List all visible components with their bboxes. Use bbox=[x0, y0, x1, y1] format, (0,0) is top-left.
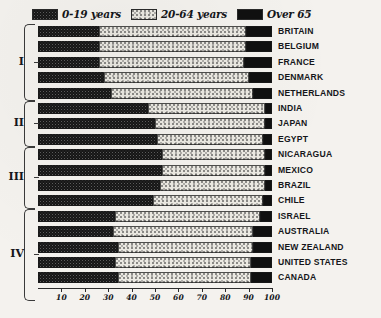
bar-segment-mid bbox=[118, 242, 254, 253]
group-tick-icon bbox=[34, 177, 39, 178]
bar-segment-old bbox=[265, 103, 272, 114]
bar-segment-young bbox=[38, 103, 148, 114]
bar-row bbox=[38, 149, 272, 160]
axis-tick-icon bbox=[249, 288, 250, 292]
bar-segment-mid bbox=[115, 211, 260, 222]
legend-swatch-0-19-icon bbox=[32, 9, 58, 20]
bar-row bbox=[38, 26, 272, 37]
axis-tick-label: 100 bbox=[264, 293, 280, 302]
bar-segment-old bbox=[246, 26, 272, 37]
legend-item-working-age: 20-64 years bbox=[131, 8, 227, 20]
group-label: II bbox=[4, 116, 24, 129]
country-label: CHILE bbox=[278, 195, 305, 206]
bar-segment-young bbox=[38, 165, 162, 176]
axis-tick-icon bbox=[108, 288, 109, 292]
bar-segment-young bbox=[38, 26, 99, 37]
country-label: INDIA bbox=[278, 103, 302, 114]
axis-tick-icon bbox=[272, 288, 273, 292]
country-label: FRANCE bbox=[278, 57, 315, 68]
bar-segment-young bbox=[38, 72, 104, 83]
country-label: NETHERLANDS bbox=[278, 88, 345, 99]
bar-segment-old bbox=[246, 41, 272, 52]
bar-row bbox=[38, 272, 272, 283]
axis-tick-label: 10 bbox=[56, 293, 67, 302]
bar-row bbox=[38, 88, 272, 99]
axis-tick-icon bbox=[178, 288, 179, 292]
legend-item-over-65: Over 65 bbox=[237, 8, 311, 20]
group-label: I bbox=[4, 55, 24, 68]
bar-segment-mid bbox=[99, 57, 244, 68]
bar-segment-old bbox=[249, 72, 272, 83]
bar-segment-young bbox=[38, 149, 162, 160]
bar-segment-old bbox=[263, 195, 272, 206]
bar-row bbox=[38, 242, 272, 253]
country-label: AUSTRALIA bbox=[278, 226, 329, 237]
bar-segment-old bbox=[265, 180, 272, 191]
bar-segment-young bbox=[38, 57, 99, 68]
bar-segment-old bbox=[251, 272, 272, 283]
axis-tick-icon bbox=[155, 288, 156, 292]
legend-label-20-64: 20-64 years bbox=[161, 8, 227, 20]
bar-row bbox=[38, 211, 272, 222]
bar-segment-mid bbox=[115, 257, 251, 268]
legend-swatch-20-64-icon bbox=[131, 9, 157, 20]
axis-tick-icon bbox=[85, 288, 86, 292]
bar-row bbox=[38, 195, 272, 206]
bar-segment-young bbox=[38, 180, 160, 191]
x-axis bbox=[38, 288, 272, 292]
group-tick-icon bbox=[34, 123, 39, 124]
bar-segment-mid bbox=[99, 41, 246, 52]
country-label: ISRAEL bbox=[278, 211, 311, 222]
bar-row bbox=[38, 57, 272, 68]
bar-segment-young bbox=[38, 242, 118, 253]
bar-segment-mid bbox=[113, 226, 253, 237]
chart-legend: 0-19 years 20-64 years Over 65 bbox=[32, 6, 284, 22]
axis-tick-label: 40 bbox=[126, 293, 137, 302]
country-label: NEW ZEALAND bbox=[278, 242, 344, 253]
axis-tick-icon bbox=[202, 288, 203, 292]
group-tick-icon bbox=[34, 62, 39, 63]
bar-segment-old bbox=[251, 257, 272, 268]
bar-segment-young bbox=[38, 41, 99, 52]
axis-tick-label: 80 bbox=[220, 293, 231, 302]
axis-tick-label: 50 bbox=[150, 293, 161, 302]
bar-segment-mid bbox=[111, 88, 254, 99]
country-label: JAPAN bbox=[278, 118, 308, 129]
bar-segment-old bbox=[260, 211, 272, 222]
bar-segment-young bbox=[38, 195, 153, 206]
bar-segment-mid bbox=[148, 103, 265, 114]
bar-segment-mid bbox=[162, 165, 265, 176]
legend-label-0-19: 0-19 years bbox=[62, 8, 121, 20]
country-label: DENMARK bbox=[278, 72, 323, 83]
bar-row bbox=[38, 103, 272, 114]
axis-tick-label: 90 bbox=[243, 293, 254, 302]
bar-row bbox=[38, 41, 272, 52]
bar-segment-young bbox=[38, 257, 115, 268]
bar-segment-mid bbox=[155, 118, 265, 129]
group-label: IV bbox=[4, 247, 24, 260]
bar-segment-mid bbox=[99, 26, 246, 37]
country-label: UNITED STATES bbox=[278, 257, 348, 268]
group-tick-icon bbox=[34, 254, 39, 255]
bar-segment-mid bbox=[157, 134, 262, 145]
country-label: CANADA bbox=[278, 272, 316, 283]
legend-item-young: 0-19 years bbox=[32, 8, 121, 20]
country-label: BRAZIL bbox=[278, 180, 311, 191]
legend-swatch-over-65-icon bbox=[237, 9, 263, 20]
bar-segment-old bbox=[265, 149, 272, 160]
axis-tick-icon bbox=[61, 288, 62, 292]
stacked-bar-plot-area bbox=[38, 26, 272, 288]
axis-tick-icon bbox=[132, 288, 133, 292]
bar-segment-mid bbox=[104, 72, 249, 83]
bar-row bbox=[38, 118, 272, 129]
bar-segment-young bbox=[38, 226, 113, 237]
bar-segment-old bbox=[253, 226, 272, 237]
bar-segment-young bbox=[38, 211, 115, 222]
bar-segment-old bbox=[263, 134, 272, 145]
group-label: III bbox=[4, 170, 24, 183]
bar-segment-young bbox=[38, 134, 157, 145]
bar-segment-mid bbox=[160, 180, 265, 191]
bar-segment-mid bbox=[162, 149, 265, 160]
bar-row bbox=[38, 226, 272, 237]
country-label: BRITAIN bbox=[278, 26, 314, 37]
